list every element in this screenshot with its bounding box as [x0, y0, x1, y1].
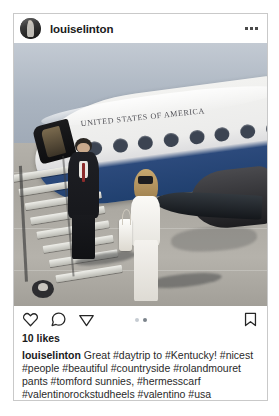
- post-caption: louiselinton Great #daytrip to #Kentucky…: [14, 344, 267, 401]
- aircraft-windows: [86, 119, 267, 158]
- aircraft-window: [239, 124, 255, 139]
- man-suit-jacket: [68, 152, 98, 217]
- more-dot-1: [245, 27, 248, 30]
- carousel-dot-1[interactable]: [135, 318, 139, 322]
- woman-sunglasses: [138, 176, 154, 184]
- caption-username[interactable]: louiselinton: [22, 349, 81, 361]
- post-username[interactable]: louiselinton: [50, 23, 243, 35]
- heart-icon[interactable]: [22, 311, 39, 328]
- aircraft-window: [188, 130, 204, 145]
- post-photo[interactable]: UNITED STATES OF AMERICA: [14, 43, 267, 306]
- aircraft-window: [112, 138, 128, 153]
- bookmark-icon[interactable]: [242, 311, 259, 328]
- woman-handbag-handle: [122, 209, 130, 226]
- share-paper-plane-icon[interactable]: [78, 311, 95, 328]
- instagram-post-card: louiselinton UNITED STATES OF AMERICA: [13, 13, 268, 401]
- comment-bubble-icon[interactable]: [50, 311, 67, 328]
- avatar[interactable]: [20, 18, 41, 39]
- carousel-dot-2[interactable]: [143, 318, 147, 322]
- woman-trousers: [134, 240, 158, 300]
- aircraft-window: [137, 135, 153, 150]
- post-actions-left: [22, 311, 95, 328]
- post-actions-bar: [14, 306, 267, 333]
- man-figure: [67, 138, 100, 259]
- more-dot-3: [255, 27, 258, 30]
- woman-blouse: [131, 196, 159, 246]
- stair-step: [55, 264, 123, 282]
- aircraft-window: [214, 127, 230, 142]
- aircraft-window: [163, 133, 179, 148]
- likes-count[interactable]: 10 likes: [14, 332, 267, 344]
- more-dot-2: [250, 27, 253, 30]
- more-options-icon[interactable]: [243, 23, 260, 34]
- aircraft-door-interior: [41, 126, 67, 158]
- woman-figure: [128, 169, 163, 301]
- aircraft-window: [265, 121, 267, 136]
- post-header: louiselinton: [14, 14, 267, 43]
- man-trousers: [72, 215, 96, 259]
- man-necktie: [82, 163, 86, 183]
